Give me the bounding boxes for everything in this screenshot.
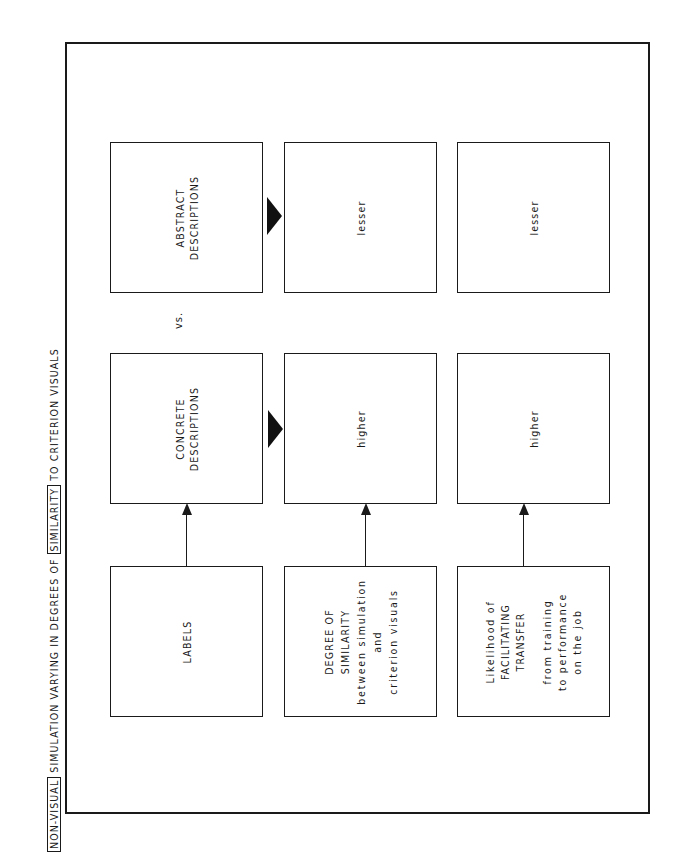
connector-line-similarity: [365, 512, 366, 567]
triangle-right-icon: [267, 197, 282, 235]
transfer-lesser-text: lesser: [527, 200, 541, 235]
transfer-spacer: [528, 592, 540, 690]
concrete-line-1: CONCRETE: [173, 386, 187, 470]
similarity-line-4: and: [369, 579, 385, 705]
concrete-line-2: DESCRIPTIONS: [187, 386, 201, 470]
connector-line-transfer: [523, 512, 524, 567]
transfer-line-2: FACILITATING: [498, 592, 513, 690]
abstract-line-1: ABSTRACT: [173, 175, 187, 259]
similarity-line-2: SIMILARITY: [337, 579, 353, 705]
similarity-line-3: between simulation: [353, 579, 369, 705]
transfer-line-7: on the job: [570, 592, 585, 690]
title-boxed-non-visual: NON-VISUAL: [47, 777, 61, 852]
box-degree-of-similarity: DEGREE OF SIMILARITY between simulation …: [284, 566, 437, 717]
title-text-1: SIMULATION VARYING IN DEGREES OF: [48, 554, 60, 776]
box-labels: LABELS: [110, 566, 263, 717]
labels-text: LABELS: [180, 620, 194, 663]
box-abstract-descriptions: ABSTRACT DESCRIPTIONS: [110, 142, 263, 293]
connector-line-labels: [186, 512, 187, 567]
transfer-line-5: from training: [540, 592, 555, 690]
abstract-line-2: DESCRIPTIONS: [187, 175, 201, 259]
box-similarity-abstract: lesser: [284, 142, 437, 293]
title-boxed-similarity: SIMILARITY: [47, 485, 61, 555]
diagram-title: NON-VISUAL SIMULATION VARYING IN DEGREES…: [47, 348, 61, 852]
arrowhead-up-icon: [519, 503, 529, 515]
transfer-line-1: Likelihood of: [483, 592, 498, 690]
triangle-right-icon: [268, 410, 283, 448]
box-transfer-abstract: lesser: [457, 142, 610, 293]
similarity-lesser-text: lesser: [354, 200, 368, 235]
similarity-line-1: DEGREE OF: [321, 579, 337, 705]
box-concrete-descriptions: CONCRETE DESCRIPTIONS: [110, 353, 263, 504]
similarity-higher-text: higher: [354, 410, 368, 448]
box-similarity-concrete: higher: [284, 353, 437, 504]
similarity-line-5: criterion visuals: [385, 579, 401, 705]
title-text-2: TO CRITERION VISUALS: [48, 348, 60, 485]
transfer-line-6: to performance: [555, 592, 570, 690]
box-transfer-concrete: higher: [457, 353, 610, 504]
vs-label: vs.: [172, 312, 185, 329]
transfer-line-3: TRANSFER: [513, 592, 528, 690]
arrowhead-up-icon: [182, 503, 192, 515]
box-likelihood-of-transfer: Likelihood of FACILITATING TRANSFER from…: [457, 566, 610, 717]
arrowhead-up-icon: [361, 503, 371, 515]
transfer-higher-text: higher: [527, 410, 541, 448]
